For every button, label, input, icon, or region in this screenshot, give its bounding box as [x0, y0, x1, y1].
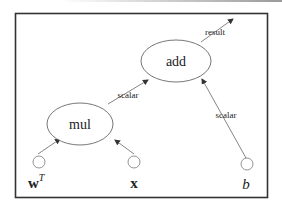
input-node-wT — [33, 156, 45, 168]
edge-label-scalar-b: scalar — [216, 110, 237, 120]
edge-x-mul — [115, 140, 134, 154]
input-node-b — [241, 158, 253, 170]
edge-wT-mul — [38, 139, 60, 154]
computational-graph: add mul scalar scalar result wT x b — [0, 0, 282, 209]
input-label-w-sup: T — [39, 172, 46, 183]
node-mul-label: mul — [69, 117, 91, 132]
input-label-b: b — [242, 176, 250, 192]
input-node-x — [128, 156, 140, 168]
edge-label-scalar-mul: scalar — [118, 90, 139, 100]
node-add-label: add — [166, 54, 186, 69]
diagram-frame — [16, 14, 268, 198]
input-label-x: x — [130, 175, 138, 191]
input-label-w: wT — [28, 172, 46, 191]
edge-label-result: result — [205, 27, 225, 37]
